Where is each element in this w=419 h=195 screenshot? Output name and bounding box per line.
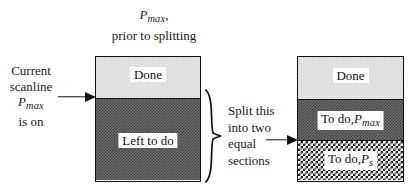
left-annotation-line1: Current [2,64,60,78]
p-subscript: max [147,13,165,24]
p-symbol: P [354,111,362,126]
p-comma: , [165,7,168,22]
figure-canvas: Pmax, prior to splitting Current scanlin… [0,0,419,195]
left-annotation-symbol-line: Pmax [2,95,60,113]
middle-annotation-line2: into two [228,121,290,135]
split-arrow [266,135,298,145]
section-label-to-do-pmax: To do,Pmax [317,111,384,130]
p-subscript: s [369,157,373,168]
section-done: Done [298,57,403,99]
middle-annotation-line4: sections [228,154,290,168]
section-label-left-to-do: Left to do [118,133,177,148]
to-do-text: To do, [328,151,361,166]
to-do-text: To do, [321,111,354,126]
top-annotation-symbol-line: Pmax, [92,8,216,26]
p-subscript: max [362,117,380,128]
section-label-done: Done [332,68,368,83]
section-done: Done [96,57,200,98]
before-splitting-box: Done Left to do [95,56,201,182]
section-to-do-ps: To do,Ps [298,140,403,180]
arrow-shaft [58,96,86,97]
top-annotation-line2: prior to splitting [92,29,216,43]
left-annotation-line2: scanline [2,80,60,94]
after-splitting-box: Done To do,Pmax To do,Ps [297,56,404,182]
scanline-arrow [58,92,96,102]
left-annotation-line4: is on [2,115,60,129]
p-subscript: max [26,100,44,111]
section-label-done: Done [130,67,166,82]
p-symbol: P [361,151,369,166]
brace-icon [203,88,223,184]
arrow-shaft [266,139,288,140]
top-annotation: Pmax, prior to splitting [92,8,216,42]
section-left-to-do: Left to do [96,98,200,180]
middle-annotation-line1: Split this [228,104,290,118]
left-annotation: Current scanline Pmax is on [2,64,60,128]
grouping-brace [203,88,223,184]
section-to-do-pmax: To do,Pmax [298,99,403,140]
section-label-to-do-ps: To do,Ps [324,151,377,170]
p-symbol: P [18,94,26,109]
